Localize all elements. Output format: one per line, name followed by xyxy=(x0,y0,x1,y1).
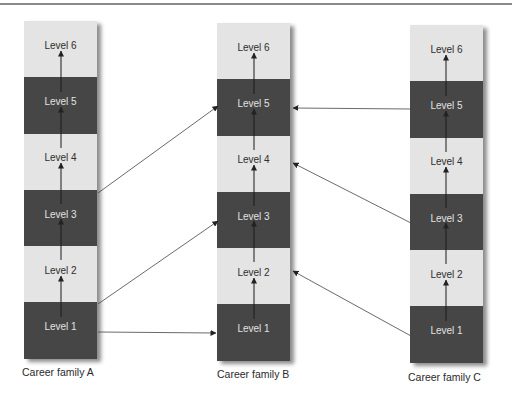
level-2-block: Level 2 xyxy=(217,248,290,304)
level-5-block: Level 5 xyxy=(24,77,97,133)
level-6-block: Level 6 xyxy=(24,21,97,77)
level-label: Level 5 xyxy=(237,98,269,109)
level-3-block: Level 3 xyxy=(410,194,483,250)
career-family-a-label: Career family A xyxy=(22,366,94,378)
level-label: Level 2 xyxy=(44,265,76,276)
level-label: Level 2 xyxy=(430,269,462,280)
level-3-block: Level 3 xyxy=(217,192,290,248)
arrow-a1-to-b1 xyxy=(98,332,216,333)
level-label: Level 4 xyxy=(430,156,462,167)
level-label: Level 3 xyxy=(237,211,269,222)
level-label: Level 6 xyxy=(430,44,462,55)
level-6-block: Level 6 xyxy=(410,25,483,81)
career-family-a-column: Level 6 Level 5 Level 4 Level 3 Level 2 … xyxy=(24,21,97,359)
level-1-block: Level 1 xyxy=(24,302,97,358)
level-label: Level 4 xyxy=(44,152,76,163)
level-label: Level 5 xyxy=(430,100,462,111)
level-label: Level 4 xyxy=(237,154,269,165)
level-4-block: Level 4 xyxy=(217,136,290,192)
level-4-block: Level 4 xyxy=(24,134,97,190)
level-4-block: Level 4 xyxy=(410,138,483,194)
arrow-a3-to-b5 xyxy=(98,106,218,193)
career-family-b-label: Career family B xyxy=(217,368,289,380)
level-label: Level 6 xyxy=(44,40,76,51)
arrow-c1-to-b2 xyxy=(293,271,411,336)
top-rule xyxy=(0,3,512,5)
level-3-block: Level 3 xyxy=(24,190,97,246)
level-label: Level 3 xyxy=(430,213,462,224)
level-label: Level 1 xyxy=(44,321,76,332)
level-1-block: Level 1 xyxy=(217,304,290,360)
level-label: Level 6 xyxy=(237,42,269,53)
career-family-c-column: Level 6 Level 5 Level 4 Level 3 Level 2 … xyxy=(410,25,483,363)
level-label: Level 2 xyxy=(237,267,269,278)
level-label: Level 5 xyxy=(44,96,76,107)
level-label: Level 1 xyxy=(430,325,462,336)
career-family-c-label: Career family C xyxy=(408,371,481,383)
level-label: Level 3 xyxy=(44,209,76,220)
career-family-b-column: Level 6 Level 5 Level 4 Level 3 Level 2 … xyxy=(217,23,290,361)
arrow-c5-to-b5 xyxy=(293,108,411,109)
level-6-block: Level 6 xyxy=(217,23,290,79)
level-label: Level 1 xyxy=(237,323,269,334)
arrow-c3-to-b4 xyxy=(293,163,411,223)
arrow-a2-to-b3 xyxy=(98,221,218,304)
level-2-block: Level 2 xyxy=(410,250,483,306)
level-1-block: Level 1 xyxy=(410,306,483,362)
level-5-block: Level 5 xyxy=(217,79,290,135)
level-5-block: Level 5 xyxy=(410,81,483,137)
level-2-block: Level 2 xyxy=(24,246,97,302)
